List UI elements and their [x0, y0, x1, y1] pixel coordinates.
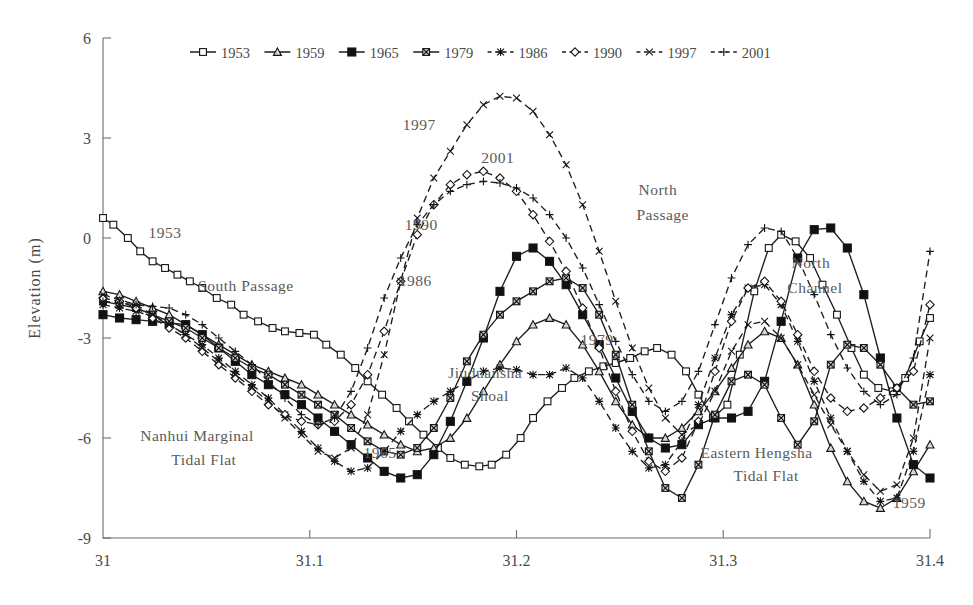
chart-annotation: Passage — [636, 206, 689, 223]
marker-open-square — [765, 245, 772, 252]
marker-filled-square — [297, 401, 305, 409]
elevation-profile-chart: 630-3-6-93131.131.231.331.4 1953South Pa… — [0, 0, 973, 605]
marker-asterisk — [876, 497, 884, 505]
marker-open-square — [149, 258, 156, 265]
marker-asterisk — [595, 397, 603, 405]
chart-annotation: 1965 — [364, 444, 397, 461]
marker-open-square — [668, 351, 675, 358]
legend-label-1953: 1953 — [221, 45, 250, 61]
marker-filled-square — [860, 291, 868, 299]
y-tick-label: 6 — [83, 30, 91, 47]
marker-asterisk — [446, 387, 454, 395]
marker-filled-square — [529, 244, 537, 252]
marker-open-square — [352, 365, 359, 372]
marker-open-square — [683, 368, 690, 375]
marker-open-square — [530, 415, 537, 422]
marker-filled-square — [909, 461, 917, 469]
marker-open-square — [875, 385, 882, 392]
marker-open-square — [834, 311, 841, 318]
chart-annotation: Jiuduansha — [448, 364, 522, 381]
marker-filled-square — [496, 287, 504, 295]
marker-open-square — [323, 341, 330, 348]
marker-open-square — [476, 463, 483, 470]
chart-annotation: 1990 — [405, 216, 438, 233]
legend-marker-open-square — [200, 49, 207, 56]
marker-asterisk — [579, 374, 587, 382]
marker-asterisk — [711, 354, 719, 362]
chart-annotation: 1997 — [403, 116, 436, 133]
marker-asterisk — [364, 464, 372, 472]
marker-asterisk — [926, 371, 934, 379]
marker-open-square — [461, 461, 468, 468]
marker-open-square — [228, 301, 235, 308]
legend-label-1986: 1986 — [519, 45, 548, 61]
marker-asterisk — [546, 371, 554, 379]
marker-filled-square — [661, 444, 669, 452]
marker-asterisk — [430, 397, 438, 405]
chart-annotation: South Passage — [198, 277, 294, 294]
chart-annotation: 1979 — [581, 331, 614, 348]
legend-marker-filled-square — [348, 48, 356, 56]
marker-open-square — [337, 351, 344, 358]
marker-open-square — [110, 221, 117, 228]
legend-label-1959: 1959 — [295, 45, 324, 61]
x-tick-label: 31.2 — [503, 552, 531, 569]
chart-annotation: Eastern Hengsha — [701, 444, 813, 461]
chart-annotation: Channel — [787, 279, 842, 296]
marker-asterisk — [612, 424, 620, 432]
marker-open-square — [571, 375, 578, 382]
marker-filled-square — [413, 471, 421, 479]
marker-open-square — [641, 348, 648, 355]
legend-marker-asterisk — [497, 48, 505, 56]
marker-open-square — [186, 278, 193, 285]
marker-asterisk — [810, 377, 818, 385]
chart-annotation: North — [638, 181, 677, 198]
marker-filled-square — [777, 317, 785, 325]
marker-asterisk — [678, 437, 686, 445]
chart-annotation: 1986 — [399, 272, 432, 289]
marker-filled-square — [827, 224, 835, 232]
chart-figure: 630-3-6-93131.131.231.331.4 1953South Pa… — [0, 0, 973, 605]
marker-filled-square — [116, 314, 124, 322]
marker-filled-square — [380, 467, 388, 475]
marker-open-square — [654, 345, 661, 352]
marker-filled-square — [926, 474, 934, 482]
marker-open-square — [255, 318, 262, 325]
x-tick-label: 31.1 — [296, 552, 324, 569]
marker-open-square — [544, 398, 551, 405]
marker-filled-square — [893, 414, 901, 422]
marker-filled-square — [728, 414, 736, 422]
marker-open-square — [792, 238, 799, 245]
marker-open-square — [447, 455, 454, 462]
chart-annotation: 1959 — [893, 494, 926, 511]
marker-filled-square — [744, 407, 752, 415]
marker-asterisk — [694, 401, 702, 409]
marker-asterisk — [413, 411, 421, 419]
marker-filled-square — [843, 244, 851, 252]
marker-filled-square — [645, 434, 653, 442]
marker-open-square — [310, 331, 317, 338]
y-tick-label: 3 — [83, 130, 91, 147]
legend-label-1997: 1997 — [667, 45, 696, 61]
marker-open-square — [213, 295, 220, 302]
chart-annotation: 2001 — [481, 149, 514, 166]
chart-background — [0, 0, 973, 605]
marker-open-square — [860, 371, 867, 378]
marker-asterisk — [347, 467, 355, 475]
marker-open-square — [100, 215, 107, 222]
x-tick-label: 31.3 — [709, 552, 737, 569]
marker-asterisk — [529, 371, 537, 379]
marker-open-square — [296, 330, 303, 337]
chart-annotation: 1953 — [148, 224, 181, 241]
marker-filled-square — [546, 257, 554, 265]
marker-open-square — [393, 405, 400, 412]
marker-open-square — [627, 355, 634, 362]
marker-open-square — [124, 235, 131, 242]
marker-filled-square — [99, 311, 107, 319]
marker-asterisk — [909, 447, 917, 455]
y-axis-label: Elevation (m) — [26, 237, 44, 338]
y-tick-label: -6 — [78, 430, 91, 447]
marker-filled-square — [132, 316, 140, 324]
marker-open-square — [927, 315, 934, 322]
marker-filled-square — [430, 451, 438, 459]
